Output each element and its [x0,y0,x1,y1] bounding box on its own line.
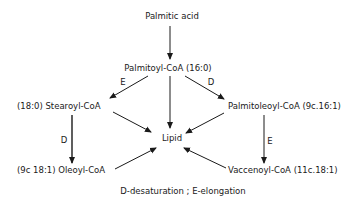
node-vaccenoyl-coa: Vaccenoyl-CoA (11c.18:1) [228,165,338,175]
arrow-palmitoleoyl-to-lipid [186,113,224,133]
node-oleoyl-coa: (9c 18:1) Oleoyl-CoA [17,165,105,175]
arrow-stearoyl-to-lipid [113,112,151,132]
edge-label-desaturation-palmitoleoyl: D [208,77,215,87]
pathway-diagram: Palmitic acid Palmitoyl-CoA (16:0) (18:0… [0,0,358,198]
node-palmitoyl-coa: Palmitoyl-CoA (16:0) [124,63,211,73]
arrow-vaccenoyl-to-lipid [184,148,226,168]
node-palmitoleoyl-coa: Palmitoleoyl-CoA (9c.16:1) [228,101,341,111]
node-lipid: Lipid [162,133,182,143]
edge-label-elongation-vaccenoyl: E [267,136,272,146]
edge-label-desaturation-oleoyl: D [61,135,68,145]
legend-note: D-desaturation ; E-elongation [120,186,245,196]
arrow-oleoyl-to-lipid [115,148,156,169]
arrow-palmitoyl-to-stearoyl [110,76,148,98]
node-palmitic-acid: Palmitic acid [145,11,199,21]
edge-label-elongation-stearoyl: E [120,77,125,87]
node-stearoyl-coa: (18:0) Stearoyl-CoA [17,101,101,111]
arrow-palmitoyl-to-palmitoleoyl [185,76,224,99]
